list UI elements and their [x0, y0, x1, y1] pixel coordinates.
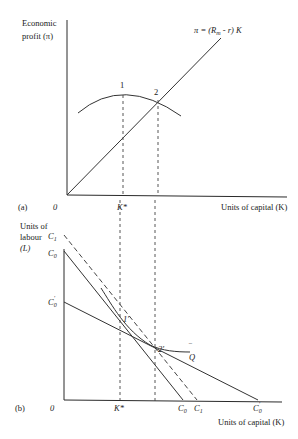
panel-a-y-axis-label-line2: profit (π) [22, 31, 53, 41]
panel-b-x-c0-prime-label: C0' [253, 401, 262, 414]
panel-a-x-axis-label: Units of capital (K) [221, 202, 287, 212]
panel-b-x-c0-label: C0 [178, 403, 187, 414]
panel-a-x-axis [67, 195, 287, 197]
panel-a-origin-label: 0 [53, 202, 58, 212]
panel-b-origin-label: 0 [50, 403, 55, 413]
panel-b-point1-label: 1' [123, 314, 129, 324]
panel-a-profit-curve [78, 95, 181, 116]
panel-b-isoquant-bar: ‾ [188, 342, 193, 352]
panel-a-cost-line [67, 38, 221, 195]
panel-b-c1-label: C1 [48, 231, 57, 242]
panel-b-x-axis [64, 400, 282, 402]
panel-b-y-axis-label-line1: Units of [20, 221, 48, 231]
panel-a-point1-label: 1 [120, 80, 124, 90]
panel-a-point2-label: 2 [154, 87, 158, 97]
panel-b-label: (b) [15, 403, 25, 413]
panel-b: Units of labour (L) C1 C0 C0' 1' 2' Q ‾ … [15, 200, 284, 427]
panel-b-c0-prime-label: C0' [48, 295, 57, 308]
panel-b-isocost-c1 [64, 235, 197, 400]
panel-a: Economic profit (π) 1 2 π = (Rm - r) K (… [18, 18, 287, 212]
economic-profit-diagram: Economic profit (π) 1 2 π = (Rm - r) K (… [0, 0, 298, 439]
panel-a-line-label: π = (Rm - r) K [194, 25, 243, 36]
panel-b-x-c1-label: C1 [194, 403, 203, 414]
panel-b-x-axis-label: Units of capital (K) [218, 417, 284, 427]
panel-a-kstar-label: K* [116, 202, 128, 212]
panel-a-label: (a) [18, 202, 28, 212]
panel-b-y-axis-label-line3: (L) [20, 243, 31, 253]
panel-b-point2-label: 2' [158, 344, 164, 354]
panel-b-kstar-label: K* [113, 403, 125, 413]
panel-b-isocost-c0 [64, 251, 183, 400]
panel-b-y-axis-label-line2: labour [20, 232, 42, 242]
panel-a-y-axis-label-line1: Economic [22, 18, 57, 28]
panel-b-isoquant-label: Q [189, 352, 195, 362]
panel-b-c0-label: C0 [48, 248, 57, 259]
